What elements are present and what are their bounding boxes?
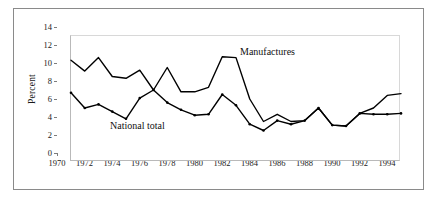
- y-tick-label: 6: [30, 95, 52, 104]
- y-axis-title: Percent: [27, 59, 37, 119]
- y-tick-mark: [54, 45, 57, 46]
- data-point-marker: [207, 113, 210, 116]
- x-tick-mark: [57, 153, 58, 156]
- data-point-marker: [276, 119, 279, 122]
- data-point-marker: [386, 113, 389, 116]
- y-tick-mark: [54, 81, 57, 82]
- data-point-marker: [358, 112, 361, 115]
- y-tick-mark: [54, 63, 57, 64]
- y-tick-label: 8: [30, 77, 52, 86]
- data-point-marker: [221, 93, 224, 96]
- data-point-marker: [83, 107, 86, 110]
- series-label-manufactures: Manufactures: [240, 47, 295, 57]
- chart-figure: Percent 02468101214 19701972197419761978…: [0, 0, 436, 204]
- data-point-marker: [97, 103, 100, 106]
- y-tick-label: 4: [30, 113, 52, 122]
- y-tick-label: 0: [30, 149, 52, 158]
- data-point-marker: [345, 125, 348, 128]
- y-tick-label: 14: [30, 23, 52, 32]
- y-tick-label: 10: [30, 59, 52, 68]
- data-point-marker: [331, 124, 334, 127]
- data-point-marker: [193, 114, 196, 117]
- y-tick-mark: [54, 117, 57, 118]
- y-tick-mark: [54, 27, 57, 28]
- data-point-marker: [248, 123, 251, 126]
- series-lines: [71, 36, 401, 162]
- data-point-marker: [235, 104, 238, 107]
- y-tick-mark: [54, 135, 57, 136]
- data-point-marker: [400, 112, 403, 115]
- data-point-marker: [180, 109, 183, 112]
- data-point-marker: [290, 123, 293, 126]
- y-tick-label: 2: [30, 131, 52, 140]
- data-point-marker: [152, 89, 155, 92]
- figure-border: Percent 02468101214 19701972197419761978…: [13, 8, 424, 190]
- data-point-marker: [303, 119, 306, 122]
- data-point-marker: [166, 101, 169, 104]
- data-point-marker: [111, 110, 114, 113]
- data-point-marker: [372, 113, 375, 116]
- data-point-marker: [262, 129, 265, 132]
- y-tick-label: 12: [30, 41, 52, 50]
- series-label-national-total: National total: [110, 121, 165, 131]
- data-point-marker: [317, 107, 320, 110]
- data-point-marker: [70, 91, 73, 94]
- data-point-marker: [138, 97, 141, 100]
- y-tick-mark: [54, 99, 57, 100]
- plot-area: [70, 35, 400, 161]
